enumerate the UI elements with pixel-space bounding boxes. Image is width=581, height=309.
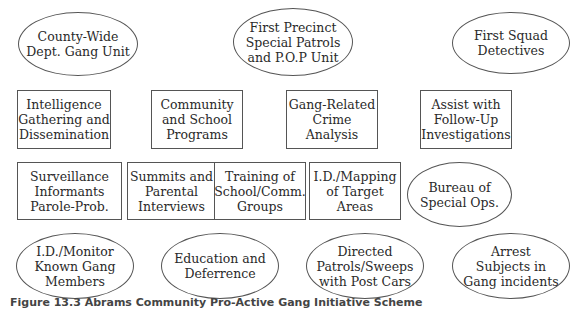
node-label-line: Gang incidents: [463, 274, 558, 289]
diagram-node-box: Training ofSchool/Comm.Groups: [214, 162, 306, 220]
node-label-line: I.D./Monitor: [34, 244, 115, 259]
node-label-line: I.D./Mapping: [310, 169, 400, 184]
node-label-line: Parole-Prob.: [30, 199, 109, 214]
node-label-line: Interviews: [130, 199, 213, 214]
node-label-line: Members: [34, 274, 115, 289]
node-label-line: Deferrence: [174, 266, 266, 281]
diagram-node-ellipse: DirectedPatrols/Sweepswith Post Cars: [306, 233, 424, 299]
diagram-node-box: Gang-RelatedCrime Analysis: [286, 90, 378, 149]
node-label-line: Intelligence: [18, 97, 109, 112]
node-label-line: Gathering and: [18, 112, 109, 127]
diagram-node-ellipse: Education andDeferrence: [161, 233, 279, 299]
node-label-line: County-Wide: [26, 29, 129, 44]
node-label-line: Known Gang: [34, 259, 115, 274]
figure-caption: Figure 13.3 Abrams Community Pro-Active …: [10, 296, 422, 309]
node-label-line: First Precinct: [246, 20, 341, 35]
diagram-node-ellipse: First PrecinctSpecial Patrolsand P.O.P U…: [233, 8, 353, 76]
node-label-line: Gang-Related: [287, 97, 377, 112]
node-label-line: Summits and: [130, 169, 213, 184]
diagram-node-box: I.D./Mappingof Target Areas: [309, 162, 401, 220]
node-label-line: Community: [161, 97, 234, 112]
diagram-node-box: SurveillanceInformantsParole-Prob.: [17, 162, 122, 220]
node-label-line: Patrols/Sweeps: [317, 259, 414, 274]
node-label-line: Bureau of: [420, 180, 499, 195]
diagram-node-ellipse: I.D./MonitorKnown GangMembers: [16, 233, 134, 299]
node-label-line: Informants: [30, 184, 109, 199]
node-label-line: Surveillance: [30, 169, 109, 184]
diagram-node-box: Summits andParentalInterviews: [127, 162, 216, 220]
node-label-line: Programs: [161, 127, 234, 142]
diagram-node-ellipse: County-WideDept. Gang Unit: [18, 12, 138, 76]
node-label-line: Groups: [214, 199, 306, 214]
node-label-line: Directed: [317, 244, 414, 259]
node-label-line: First Squad: [474, 28, 548, 43]
diagram-node-box: Communityand SchoolPrograms: [151, 90, 243, 149]
node-label-line: Subjects in: [463, 259, 558, 274]
node-label-line: Investigations: [421, 127, 510, 142]
node-label-line: and P.O.P Unit: [246, 50, 341, 65]
diagram-node-box: IntelligenceGathering andDissemination: [17, 90, 111, 149]
diagram-node-ellipse: First SquadDetectives: [452, 12, 570, 74]
node-label-line: School/Comm.: [214, 184, 306, 199]
node-label-line: Special Ops.: [420, 195, 499, 210]
diagram-node-ellipse: Bureau ofSpecial Ops.: [407, 162, 512, 227]
node-label-line: Arrest: [463, 244, 558, 259]
node-label-line: Follow-Up: [421, 112, 510, 127]
node-label-line: Education and: [174, 251, 266, 266]
node-label-line: Parental: [130, 184, 213, 199]
node-label-line: with Post Cars: [317, 274, 414, 289]
node-label-line: Crime Analysis: [287, 112, 377, 142]
node-label-line: Detectives: [474, 43, 548, 58]
node-label-line: Dissemination: [18, 127, 109, 142]
node-label-line: Assist with: [421, 97, 510, 112]
node-label-line: of Target Areas: [310, 184, 400, 214]
node-label-line: and School: [161, 112, 234, 127]
node-label-line: Dept. Gang Unit: [26, 44, 129, 59]
node-label-line: Training of: [214, 169, 306, 184]
node-label-line: Special Patrols: [246, 35, 341, 50]
diagram-node-ellipse: ArrestSubjects inGang incidents: [452, 233, 570, 299]
diagram-node-box: Assist withFollow-UpInvestigations: [420, 90, 512, 149]
